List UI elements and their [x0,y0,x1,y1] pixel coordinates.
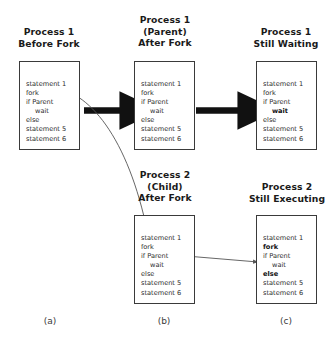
code-line: statement 6 [263,135,303,144]
code-line: fork [263,243,303,252]
code-box-process2-still-executing: statement 1 fork if Parent wait else sta… [256,215,317,304]
code-listing: statement 1 fork if Parent wait else sta… [263,234,303,298]
arrow-child-flow-b-to-c [186,256,258,262]
code-line: fork [263,89,303,98]
code-listing: statement 1 fork if Parent wait else sta… [263,80,303,144]
code-line: wait [263,261,303,270]
caption-line: (Child) [122,181,208,193]
code-line: if Parent [141,98,181,107]
code-line: statement 6 [263,289,303,298]
code-line: statement 1 [141,80,181,89]
code-line: statement 5 [263,125,303,134]
code-line: statement 5 [26,125,66,134]
caption-line: Before Fork [6,38,92,50]
code-box-process2-child-after-fork: statement 1 fork if Parent wait else sta… [134,215,195,304]
caption-line: Process 2 [122,169,208,181]
code-line: if Parent [141,252,181,261]
fork-process-diagram: Process 1 Before Fork statement 1 fork i… [0,0,334,342]
code-line: statement 5 [141,279,181,288]
caption-line: (Parent) [122,26,208,38]
code-line: statement 1 [263,234,303,243]
code-line: statement 1 [26,80,66,89]
caption-line: After Fork [122,37,208,49]
code-line: else [26,116,66,125]
code-line: wait [263,107,303,116]
caption-line: Process 2 [241,181,333,193]
caption-line: Process 1 [243,26,329,38]
code-box-process1-parent-after-fork: statement 1 fork if Parent wait else sta… [134,61,195,150]
code-line: if Parent [263,98,303,107]
code-line: statement 1 [141,234,181,243]
code-line: statement 5 [141,125,181,134]
caption-process1-before-fork: Process 1 Before Fork [6,26,92,49]
caption-process2-still-executing: Process 2 Still Executing [241,181,333,204]
code-box-process1-still-waiting: statement 1 fork if Parent wait else sta… [256,61,317,150]
code-line: else [263,116,303,125]
panel-label-c: (c) [266,316,306,326]
caption-line: After Fork [122,192,208,204]
code-line: statement 6 [141,135,181,144]
code-line: fork [141,89,181,98]
code-line: fork [26,89,66,98]
code-line: statement 1 [263,80,303,89]
code-line: fork [141,243,181,252]
panel-label-a: (a) [30,316,70,326]
caption-process2-child-after-fork: Process 2 (Child) After Fork [122,169,208,204]
code-line: wait [141,261,181,270]
code-line: if Parent [26,98,66,107]
code-listing: statement 1 fork if Parent wait else sta… [141,80,181,144]
code-line: statement 6 [141,289,181,298]
code-line: statement 6 [26,135,66,144]
code-line: else [263,270,303,279]
caption-line: Still Executing [241,193,333,205]
code-line: statement 5 [263,279,303,288]
code-line: else [141,270,181,279]
code-line: else [141,116,181,125]
caption-line: Process 1 [122,14,208,26]
code-line: wait [26,107,66,116]
caption-line: Process 1 [6,26,92,38]
code-line: wait [141,107,181,116]
code-listing: statement 1 fork if Parent wait else sta… [26,80,66,144]
caption-process1-still-waiting: Process 1 Still Waiting [243,26,329,49]
panel-label-b: (b) [144,316,184,326]
code-line: if Parent [263,252,303,261]
code-listing: statement 1 fork if Parent wait else sta… [141,234,181,298]
caption-process1-parent-after-fork: Process 1 (Parent) After Fork [122,14,208,49]
code-box-process1-before-fork: statement 1 fork if Parent wait else sta… [19,61,80,150]
caption-line: Still Waiting [243,38,329,50]
